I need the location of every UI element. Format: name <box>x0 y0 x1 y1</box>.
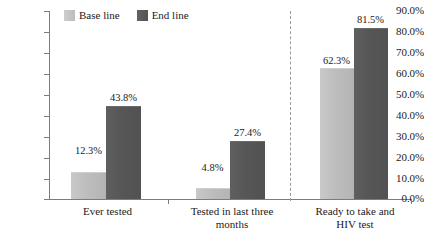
bar-end-line-ready-to-take-hiv-test[interactable] <box>354 28 388 199</box>
legend-label-base-line: Base line <box>79 10 120 21</box>
y-tick-60 <box>44 74 49 75</box>
bar-label-base-line-tested-last-three-months: 4.8% <box>190 162 235 173</box>
bar-label-end-line-tested-last-three-months: 27.4% <box>225 127 270 138</box>
legend-item-base-line[interactable]: Base line <box>64 10 120 21</box>
bar-end-line-ever-tested[interactable] <box>106 106 141 199</box>
category-label-ever-tested: Ever tested <box>60 205 155 218</box>
y-tick-label-30: 30.0% <box>382 131 424 142</box>
category-label-line-1: Ever tested <box>60 205 155 218</box>
y-tick-label-10: 10.0% <box>382 173 424 184</box>
category-label-ready-to-take-hiv-test: Ready to take and HIV test <box>300 205 410 231</box>
y-tick-label-60: 60.0% <box>382 68 424 79</box>
category-label-line-2: months <box>177 218 287 231</box>
y-tick-80 <box>44 32 49 33</box>
y-tick-label-40: 40.0% <box>382 110 424 121</box>
y-tick-30 <box>44 137 49 138</box>
category-label-line-2: HIV test <box>300 218 410 231</box>
legend-item-end-line[interactable]: End line <box>137 10 189 21</box>
x-axis-end-tick <box>411 199 412 204</box>
y-tick-label-0: 0.0% <box>382 193 424 204</box>
y-tick-label-70: 70.0% <box>382 47 424 58</box>
legend-label-end-line: End line <box>152 10 189 21</box>
bar-label-base-line-ever-tested: 12.3% <box>66 145 111 156</box>
y-tick-20 <box>44 158 49 159</box>
y-tick-90 <box>44 11 49 12</box>
y-tick-40 <box>44 116 49 117</box>
x-axis-line <box>49 199 412 200</box>
y-tick-10 <box>44 179 49 180</box>
category-label-tested-last-three-months: Tested in last three months <box>177 205 287 231</box>
chart-legend: Base line End line <box>64 10 189 21</box>
bar-base-line-ever-tested[interactable] <box>71 172 106 199</box>
category-label-line-1: Tested in last three <box>177 205 287 218</box>
y-tick-0 <box>44 199 49 200</box>
bar-base-line-ready-to-take-hiv-test[interactable] <box>320 68 354 199</box>
bar-label-base-line-ready-to-take-hiv-test: 62.3% <box>314 55 359 66</box>
bar-label-end-line-ready-to-take-hiv-test: 81.5% <box>348 14 393 25</box>
legend-swatch-base-line <box>64 10 75 21</box>
bar-base-line-tested-last-three-months[interactable] <box>196 188 230 199</box>
bar-end-line-tested-last-three-months[interactable] <box>230 141 265 199</box>
bar-chart: Base line End line 90.0% 80.0% 70.0% 60.… <box>0 0 424 244</box>
y-tick-70 <box>44 53 49 54</box>
chart-title-sliver <box>0 0 424 3</box>
y-tick-label-20: 20.0% <box>382 152 424 163</box>
bar-label-end-line-ever-tested: 43.8% <box>101 92 146 103</box>
y-tick-label-80: 80.0% <box>382 26 424 37</box>
y-axis-line <box>49 11 50 200</box>
category-label-line-1: Ready to take and <box>300 205 410 218</box>
legend-swatch-end-line <box>137 10 148 21</box>
x-tick-group-1-2 <box>168 199 169 204</box>
section-divider-dashed <box>290 11 291 201</box>
y-tick-label-50: 50.0% <box>382 89 424 100</box>
y-tick-50 <box>44 95 49 96</box>
